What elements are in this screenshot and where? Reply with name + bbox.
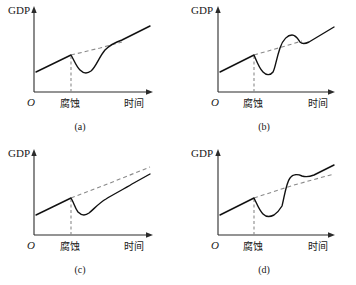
actual-gdp-curve	[36, 174, 150, 215]
y-axis-arrow-icon	[215, 6, 220, 13]
panel-caption: (b)	[258, 121, 270, 133]
x-axis-arrow-icon	[146, 89, 153, 94]
panel-a-svg: GDP O 腐蚀 时间 (a)	[0, 0, 178, 142]
y-axis-label: GDP	[191, 4, 213, 16]
chart-panel-c: GDP O 腐蚀 时间 (c)	[0, 143, 178, 285]
panel-c-svg: GDP O 腐蚀 时间 (c)	[0, 143, 178, 285]
shock-tick-label: 腐蚀	[60, 97, 80, 109]
panel-caption: (d)	[258, 264, 270, 276]
shock-tick-label: 腐蚀	[243, 97, 263, 109]
origin-label: O	[27, 239, 35, 251]
origin-label: O	[211, 96, 219, 108]
panel-caption: (a)	[74, 121, 85, 133]
counterfactual-trend-curve	[254, 174, 334, 198]
chart-panel-b: GDP O 腐蚀 时间 (b)	[178, 0, 356, 142]
origin-label: O	[27, 96, 35, 108]
panel-caption: (c)	[74, 264, 85, 276]
y-axis-arrow-icon	[31, 6, 36, 13]
x-axis-label: 时间	[308, 97, 328, 109]
y-axis-label: GDP	[8, 4, 30, 16]
x-axis-arrow-icon	[146, 232, 153, 237]
chart-panel-a: GDP O 腐蚀 时间 (a)	[0, 0, 178, 142]
actual-gdp-curve	[220, 27, 334, 75]
panel-d-svg: GDP O 腐蚀 时间 (d)	[178, 143, 356, 285]
chart-panel-d: GDP O 腐蚀 时间 (d)	[178, 143, 356, 285]
x-axis-label: 时间	[308, 240, 328, 252]
origin-label: O	[211, 239, 219, 251]
panel-b-svg: GDP O 腐蚀 时间 (b)	[178, 0, 356, 142]
y-axis-label: GDP	[191, 147, 213, 159]
counterfactual-trend-curve	[71, 167, 150, 198]
x-axis-label: 时间	[124, 240, 144, 252]
y-axis-label: GDP	[8, 147, 30, 159]
y-axis-arrow-icon	[31, 149, 36, 156]
y-axis-arrow-icon	[215, 149, 220, 156]
shock-tick-label: 腐蚀	[60, 240, 80, 252]
x-axis-arrow-icon	[328, 89, 335, 94]
x-axis-arrow-icon	[328, 232, 335, 237]
shock-tick-label: 腐蚀	[243, 240, 263, 252]
x-axis-label: 时间	[124, 97, 144, 109]
figure-container: GDP O 腐蚀 时间 (a) GDP O 腐蚀 时间 (b)	[0, 0, 356, 285]
